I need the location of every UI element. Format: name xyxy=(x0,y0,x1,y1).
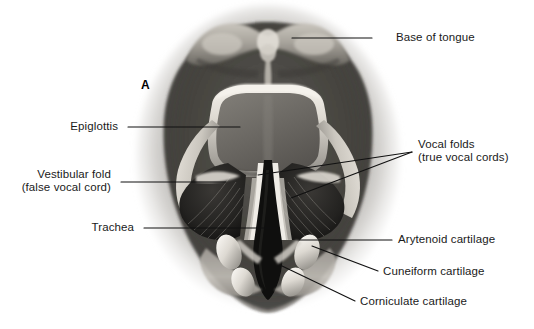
panel-letter-a: A xyxy=(141,78,150,92)
label-base-of-tongue: Base of tongue xyxy=(396,31,475,44)
label-arytenoid-cartilage-line-1: Arytenoid cartilage xyxy=(398,233,495,246)
label-corniculate-cartilage: Corniculate cartilage xyxy=(360,295,467,308)
label-vestibular-fold: Vestibular fold (false vocal cord) xyxy=(0,168,121,194)
label-cuneiform-cartilage-line-1: Cuneiform cartilage xyxy=(383,265,485,278)
anatomy-figure: A Base of tongue Epiglottis Vocal folds … xyxy=(0,0,534,329)
label-vestibular-fold-line-2: (false vocal cord) xyxy=(0,181,111,194)
label-epiglottis: Epiglottis xyxy=(0,120,128,133)
label-epiglottis-line-1: Epiglottis xyxy=(0,120,118,133)
label-arytenoid-cartilage: Arytenoid cartilage xyxy=(398,233,495,246)
larynx-illustration xyxy=(0,0,534,329)
label-base-of-tongue-line-1: Base of tongue xyxy=(396,31,475,44)
label-vocal-folds-line-2: (true vocal cords) xyxy=(418,151,509,164)
label-cuneiform-cartilage: Cuneiform cartilage xyxy=(383,265,485,278)
label-vocal-folds: Vocal folds (true vocal cords) xyxy=(418,138,509,164)
label-trachea: Trachea xyxy=(0,221,144,234)
label-corniculate-cartilage-line-1: Corniculate cartilage xyxy=(360,295,467,308)
label-vocal-folds-line-1: Vocal folds xyxy=(418,138,509,151)
label-vestibular-fold-line-1: Vestibular fold xyxy=(0,168,111,181)
label-trachea-line-1: Trachea xyxy=(0,221,134,234)
